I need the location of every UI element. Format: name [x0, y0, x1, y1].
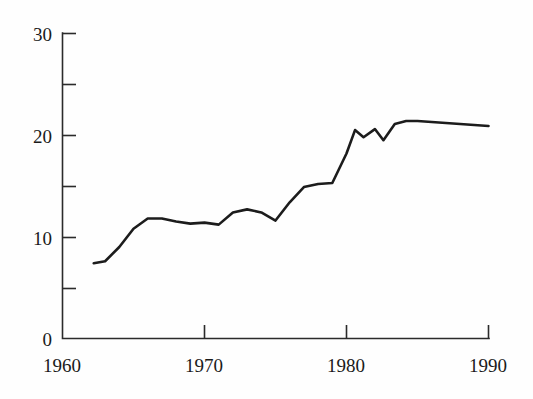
x-tick-label-1990: 1990 [469, 355, 507, 376]
x-tick-label-1970: 1970 [185, 355, 223, 376]
y-axis-minor-ticks [63, 85, 77, 289]
x-tick-label-1980: 1980 [327, 355, 365, 376]
y-tick-label-30: 30 [33, 24, 52, 45]
y-tick-label-10: 10 [33, 228, 52, 249]
x-axis-ticks [205, 325, 489, 339]
y-axis-major-ticks [63, 34, 77, 238]
y-tick-label-0: 0 [43, 329, 53, 350]
y-tick-label-20: 20 [33, 126, 52, 147]
data-series-line [94, 121, 489, 263]
axis-spines [63, 33, 490, 339]
chart-figure: 30 20 10 0 1960 1970 1980 1990 [0, 0, 533, 399]
x-tick-label-1960: 1960 [43, 355, 81, 376]
line-chart-plot: 30 20 10 0 1960 1970 1980 1990 [0, 0, 533, 399]
